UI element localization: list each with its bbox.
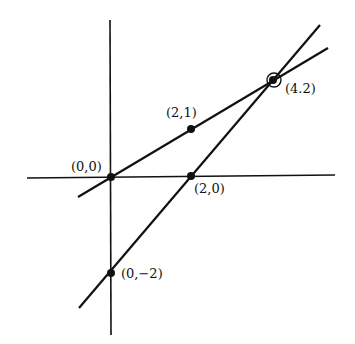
label-4-2: (4.2) — [285, 81, 316, 96]
point-0-neg2 — [107, 269, 115, 277]
line-y-x-minus-2 — [79, 25, 320, 308]
point-2-1 — [187, 125, 195, 133]
label-2-0: (2,0) — [194, 181, 225, 196]
label-origin: (0,0) — [71, 159, 102, 174]
point-4-2 — [269, 76, 277, 84]
label-0-neg2: (0,−2) — [121, 266, 163, 281]
x-axis — [27, 175, 335, 178]
label-2-1: (2,1) — [166, 105, 197, 120]
point-origin — [107, 173, 115, 181]
point-2-0 — [187, 172, 195, 180]
diagram-svg — [0, 0, 355, 344]
diagram-canvas: (0,0) (2,1) (2,0) (0,−2) (4.2) — [0, 0, 355, 344]
